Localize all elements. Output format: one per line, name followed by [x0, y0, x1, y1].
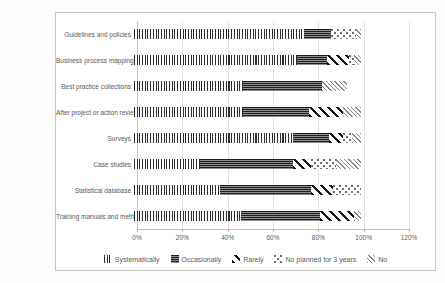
legend-marker-sparse-dots-icon: [274, 255, 282, 263]
category-label-best-practice-collections: Best practice collections: [56, 83, 134, 90]
bar-segment-no: [352, 133, 361, 143]
bar-segment-systematically: [134, 81, 243, 91]
bar-row: Best practice collections: [56, 73, 409, 99]
legend-label: Occasionally: [182, 256, 222, 263]
x-tick-label: 60%: [266, 234, 279, 241]
bar-segment-occasionally: [293, 133, 329, 143]
category-label-after-project-or-action-review: After project or action review: [56, 109, 134, 116]
legend: SystematicallyOccasionallyRarelyNo plann…: [56, 253, 435, 265]
x-axis-tick: [364, 229, 365, 232]
legend-marker-vertical-lines-icon: [104, 255, 112, 263]
x-tick-label: 80%: [312, 234, 325, 241]
legend-label: No planned for 3 years: [285, 256, 356, 263]
bar-segment-occasionally: [304, 29, 331, 39]
legend-item-no-planned-for-3-years: No planned for 3 years: [274, 255, 356, 263]
bar-segment-systematically: [134, 107, 243, 117]
legend-item-rarely: Rarely: [232, 255, 263, 263]
gridline: [409, 21, 410, 229]
bar-segment-rarely: [320, 211, 354, 221]
x-axis-tick: [182, 229, 183, 232]
bar-row: After project or action review: [56, 99, 409, 125]
chart-figure: Guidelines and policiesBusiness process …: [55, 12, 436, 271]
bar-segment-rarely: [329, 133, 343, 143]
bar-segment-systematically: [134, 211, 241, 221]
category-label-training-manuals-and-methodologies: Training manuals and methodologies: [56, 213, 134, 220]
photo-page-background: Guidelines and policiesBusiness process …: [0, 0, 445, 283]
legend-marker-bold-diagonal-stripes-icon: [232, 255, 240, 263]
bar-segment-rarely: [293, 159, 311, 169]
bar-row: Statistical database: [56, 177, 409, 203]
bar-segment-no: [356, 29, 361, 39]
bar-segment-rarely: [311, 185, 334, 195]
x-tick-label: 120%: [401, 234, 418, 241]
legend-label: Systematically: [115, 256, 160, 263]
bar-segment-systematically: [134, 29, 304, 39]
bar-segment-rarely: [309, 107, 343, 117]
bar-track: [134, 81, 406, 91]
bar-track: [134, 211, 406, 221]
bar-rows: Guidelines and policiesBusiness process …: [56, 21, 409, 229]
x-tick-label: 40%: [221, 234, 234, 241]
legend-item-no: No: [367, 255, 387, 263]
bar-segment-no-planned-for-3-years: [343, 133, 352, 143]
legend-item-occasionally: Occasionally: [171, 255, 222, 263]
bar-segment-occasionally: [243, 107, 309, 117]
bar-segment-no-planned-for-3-years: [333, 185, 360, 195]
bar-segment-no: [354, 55, 361, 65]
bar-segment-rarely: [327, 55, 350, 65]
bar-segment-systematically: [134, 133, 293, 143]
x-axis-tick: [273, 229, 274, 232]
bar-segment-no: [354, 211, 361, 221]
bar-segment-occasionally: [297, 55, 326, 65]
category-label-surveys: Surveys: [56, 135, 134, 142]
bar-track: [134, 185, 406, 195]
bar-segment-systematically: [134, 185, 220, 195]
legend-label: Rarely: [243, 256, 263, 263]
bar-row: Business process mapping: [56, 47, 409, 73]
x-tick-label: 100%: [355, 234, 372, 241]
category-label-case-studies: Case studies: [56, 161, 134, 168]
x-tick-labels: 0%20%40%60%80%100%120%: [137, 229, 409, 245]
bar-segment-occasionally: [241, 211, 320, 221]
x-axis-tick: [318, 229, 319, 232]
x-tick-label: 20%: [176, 234, 189, 241]
x-axis-tick: [228, 229, 229, 232]
bar-segment-no-planned-for-3-years: [331, 29, 356, 39]
bar-row: Training manuals and methodologies: [56, 203, 409, 229]
category-label-guidelines-and-policies: Guidelines and policies: [56, 31, 134, 38]
x-axis-tick: [137, 229, 138, 232]
category-label-statistical-database: Statistical database: [56, 187, 134, 194]
x-axis-tick: [409, 229, 410, 232]
bar-row: Case studies: [56, 151, 409, 177]
bar-segment-no: [336, 159, 361, 169]
bar-track: [134, 55, 406, 65]
bar-segment-occasionally: [200, 159, 293, 169]
bar-segment-systematically: [134, 55, 297, 65]
bar-track: [134, 133, 406, 143]
bar-segment-occasionally: [243, 81, 322, 91]
bar-row: Guidelines and policies: [56, 21, 409, 47]
bar-track: [134, 159, 406, 169]
legend-marker-fine-diagonal-crosshatch-icon: [367, 255, 375, 263]
bar-segment-no: [322, 81, 347, 91]
bar-segment-occasionally: [220, 185, 311, 195]
legend-item-systematically: Systematically: [104, 255, 160, 263]
bar-track: [134, 107, 406, 117]
bar-segment-no: [343, 107, 361, 117]
bar-segment-systematically: [134, 159, 200, 169]
legend-label: No: [378, 256, 387, 263]
bar-row: Surveys: [56, 125, 409, 151]
legend-marker-dark-horizontal-lines-icon: [171, 255, 179, 263]
bar-segment-no-planned-for-3-years: [311, 159, 336, 169]
category-label-business-process-mapping: Business process mapping: [56, 57, 134, 64]
x-tick-label: 0%: [132, 234, 141, 241]
bar-track: [134, 29, 406, 39]
